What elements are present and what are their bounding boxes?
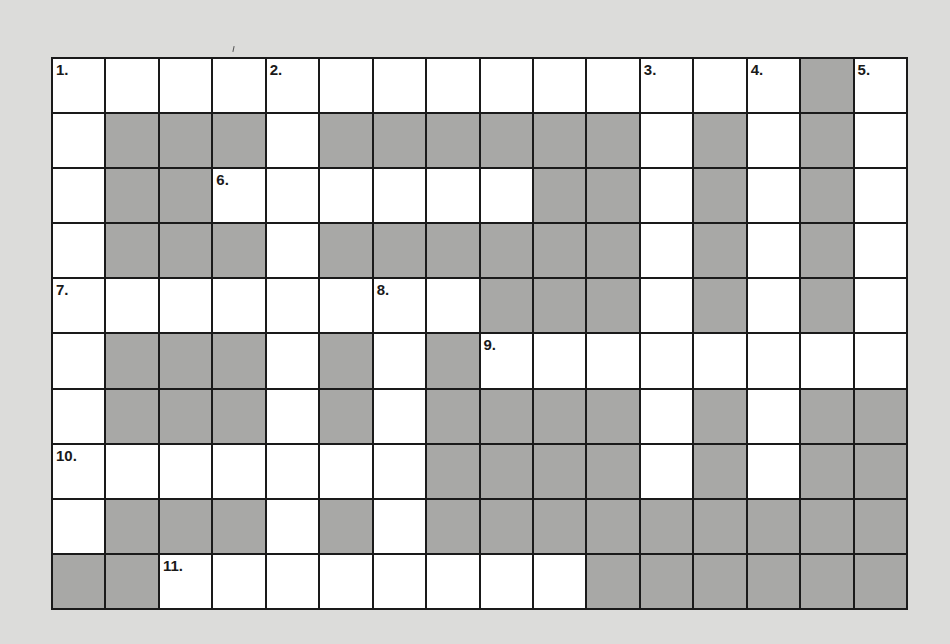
answer-cell[interactable] <box>427 59 478 112</box>
answer-cell[interactable] <box>374 390 425 443</box>
answer-cell[interactable] <box>374 500 425 553</box>
answer-cell[interactable] <box>427 169 478 222</box>
blocked-cell <box>106 224 157 277</box>
blocked-cell <box>748 500 799 553</box>
answer-cell[interactable] <box>267 445 318 498</box>
answer-cell[interactable] <box>106 279 157 332</box>
answer-cell[interactable] <box>534 555 585 608</box>
answer-cell[interactable] <box>855 169 906 222</box>
answer-cell[interactable] <box>427 279 478 332</box>
answer-cell[interactable] <box>641 390 692 443</box>
answer-cell[interactable] <box>53 390 104 443</box>
answer-cell[interactable] <box>160 279 211 332</box>
answer-cell[interactable] <box>267 334 318 387</box>
answer-cell[interactable] <box>748 169 799 222</box>
clue-number: 7. <box>56 282 69 297</box>
clue-number: 11. <box>163 558 183 573</box>
answer-cell[interactable] <box>587 334 638 387</box>
answer-cell[interactable]: 5. <box>855 59 906 112</box>
answer-cell[interactable] <box>374 334 425 387</box>
answer-cell[interactable] <box>53 334 104 387</box>
answer-cell[interactable] <box>641 279 692 332</box>
answer-cell[interactable] <box>374 169 425 222</box>
answer-cell[interactable] <box>481 169 532 222</box>
blocked-cell <box>106 390 157 443</box>
answer-cell[interactable] <box>267 224 318 277</box>
answer-cell[interactable]: 4. <box>748 59 799 112</box>
answer-cell[interactable] <box>748 334 799 387</box>
answer-cell[interactable] <box>694 59 745 112</box>
blocked-cell <box>106 334 157 387</box>
answer-cell[interactable] <box>855 224 906 277</box>
answer-cell[interactable] <box>748 114 799 167</box>
blocked-cell <box>855 555 906 608</box>
answer-cell[interactable] <box>641 169 692 222</box>
blocked-cell <box>481 224 532 277</box>
answer-cell[interactable] <box>855 334 906 387</box>
blocked-cell <box>534 279 585 332</box>
answer-cell[interactable] <box>213 555 264 608</box>
answer-cell[interactable] <box>641 334 692 387</box>
answer-cell[interactable] <box>374 59 425 112</box>
answer-cell[interactable] <box>481 555 532 608</box>
answer-cell[interactable] <box>320 555 371 608</box>
blocked-cell <box>320 224 371 277</box>
answer-cell[interactable]: 11. <box>160 555 211 608</box>
answer-cell[interactable] <box>106 445 157 498</box>
blocked-cell <box>801 169 852 222</box>
answer-cell[interactable] <box>267 555 318 608</box>
answer-cell[interactable] <box>748 390 799 443</box>
answer-cell[interactable] <box>641 445 692 498</box>
answer-cell[interactable] <box>53 169 104 222</box>
answer-cell[interactable]: 9. <box>481 334 532 387</box>
answer-cell[interactable] <box>748 445 799 498</box>
answer-cell[interactable] <box>267 169 318 222</box>
blocked-cell <box>801 279 852 332</box>
answer-cell[interactable] <box>427 555 478 608</box>
answer-cell[interactable]: 6. <box>213 169 264 222</box>
answer-cell[interactable]: 7. <box>53 279 104 332</box>
answer-cell[interactable] <box>267 500 318 553</box>
answer-cell[interactable]: 10. <box>53 445 104 498</box>
answer-cell[interactable] <box>320 169 371 222</box>
answer-cell[interactable] <box>534 59 585 112</box>
answer-cell[interactable] <box>320 279 371 332</box>
answer-cell[interactable] <box>213 445 264 498</box>
answer-cell[interactable] <box>53 500 104 553</box>
answer-cell[interactable] <box>160 59 211 112</box>
blocked-cell <box>160 169 211 222</box>
blocked-cell <box>106 169 157 222</box>
answer-cell[interactable] <box>106 59 157 112</box>
answer-cell[interactable] <box>374 445 425 498</box>
answer-cell[interactable] <box>481 59 532 112</box>
answer-cell[interactable] <box>267 114 318 167</box>
blocked-cell <box>694 224 745 277</box>
answer-cell[interactable] <box>748 279 799 332</box>
answer-cell[interactable] <box>801 334 852 387</box>
blocked-cell <box>213 390 264 443</box>
answer-cell[interactable] <box>53 224 104 277</box>
answer-cell[interactable] <box>53 114 104 167</box>
answer-cell[interactable] <box>213 59 264 112</box>
answer-cell[interactable] <box>320 445 371 498</box>
answer-cell[interactable] <box>641 114 692 167</box>
answer-cell[interactable] <box>320 59 371 112</box>
answer-cell[interactable] <box>213 279 264 332</box>
answer-cell[interactable] <box>267 390 318 443</box>
blocked-cell <box>374 224 425 277</box>
answer-cell[interactable]: 2. <box>267 59 318 112</box>
answer-cell[interactable] <box>587 59 638 112</box>
answer-cell[interactable] <box>267 279 318 332</box>
answer-cell[interactable]: 3. <box>641 59 692 112</box>
answer-cell[interactable]: 1. <box>53 59 104 112</box>
answer-cell[interactable] <box>748 224 799 277</box>
answer-cell[interactable] <box>534 334 585 387</box>
answer-cell[interactable] <box>694 334 745 387</box>
answer-cell[interactable] <box>641 224 692 277</box>
answer-cell[interactable] <box>855 114 906 167</box>
answer-cell[interactable] <box>160 445 211 498</box>
answer-cell[interactable]: 8. <box>374 279 425 332</box>
blocked-cell <box>801 59 852 112</box>
answer-cell[interactable] <box>374 555 425 608</box>
answer-cell[interactable] <box>855 279 906 332</box>
